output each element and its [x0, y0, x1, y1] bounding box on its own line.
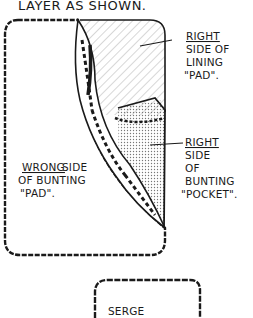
svg-text:"POCKET".: "POCKET". [181, 188, 238, 200]
label-right-side-bunting-pocket: RIGHT SIDE OF BUNTING "POCKET". [181, 136, 238, 200]
svg-text:WRONG: WRONG [22, 161, 65, 173]
svg-text:BUNTING: BUNTING [185, 175, 235, 187]
svg-text:RIGHT: RIGHT [186, 30, 220, 42]
header-text: LAYER AS SHOWN. [18, 0, 147, 13]
svg-text:SIDE OF: SIDE OF [186, 43, 230, 55]
svg-text:OF: OF [185, 162, 200, 174]
svg-text:"PAD".: "PAD". [184, 69, 219, 81]
svg-text:SIDE: SIDE [185, 149, 210, 161]
svg-text:RIGHT: RIGHT [185, 136, 219, 148]
serge-box: SERGE [95, 280, 200, 318]
sewing-diagram: LAYER AS SHOWN. RIGHT SIDE OF LINING "PA… [0, 0, 253, 318]
svg-text:SIDE: SIDE [62, 161, 87, 173]
svg-text:OF BUNTING: OF BUNTING [18, 174, 86, 186]
svg-text:LINING: LINING [186, 56, 223, 68]
label-right-side-lining: RIGHT SIDE OF LINING "PAD". [184, 30, 230, 81]
svg-text:"PAD".: "PAD". [20, 187, 55, 199]
svg-text:SERGE: SERGE [108, 305, 144, 317]
